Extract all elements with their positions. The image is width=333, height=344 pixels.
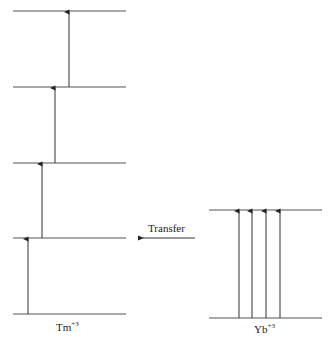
yb-excitation-arrows	[239, 211, 280, 318]
yb-label: Yb+3	[254, 322, 275, 335]
tm-label: Tm+3	[56, 320, 79, 333]
energy-level-diagram	[0, 0, 333, 344]
transfer-label: Transfer	[148, 222, 185, 234]
